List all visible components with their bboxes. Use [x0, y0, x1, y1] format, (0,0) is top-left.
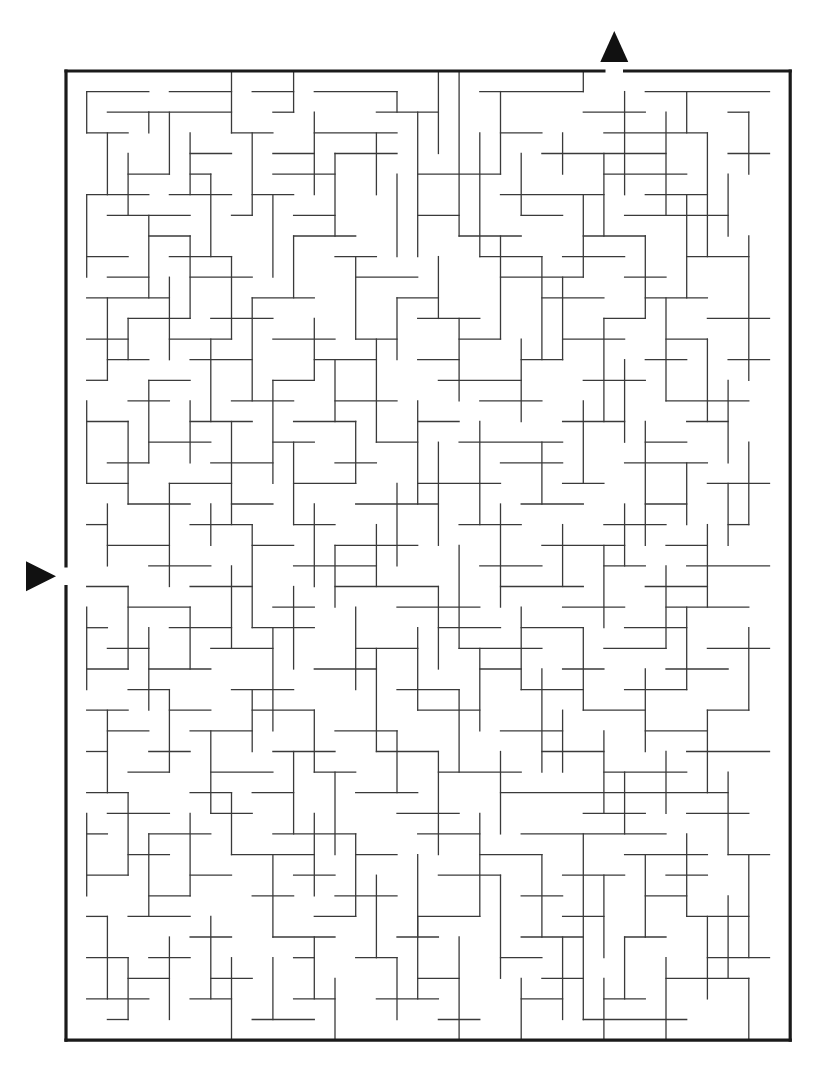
maze-border — [66, 71, 790, 1040]
finish-arrow-icon — [600, 31, 628, 62]
maze-walls — [87, 71, 770, 1040]
start-arrow-icon — [26, 561, 56, 591]
maze-board — [0, 0, 820, 1073]
